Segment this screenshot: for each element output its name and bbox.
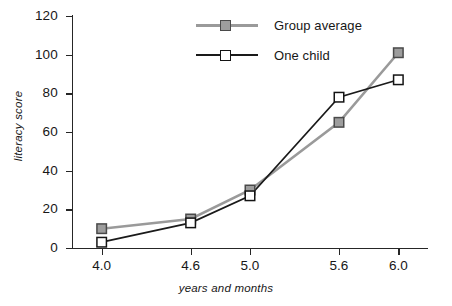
data-point-marker [394, 48, 404, 58]
data-point-marker [97, 224, 107, 234]
legend-label-one-child: One child [274, 48, 330, 63]
data-point-marker [245, 191, 255, 201]
legend-swatch-one-child [196, 48, 258, 62]
open-square-marker-icon [220, 50, 231, 61]
data-point-marker [334, 118, 344, 128]
literacy-score-line-chart: 020406080100120 4.04.65.05.66.0 literacy… [0, 0, 452, 306]
legend-item-one-child: One child [196, 40, 362, 70]
legend-swatch-group-average [196, 18, 258, 32]
data-point-marker [394, 75, 404, 85]
data-point-marker [186, 218, 196, 228]
data-point-marker [97, 237, 107, 247]
data-point-marker [334, 92, 344, 102]
legend-item-group-average: Group average [196, 10, 362, 40]
chart-legend: Group average One child [196, 10, 362, 70]
filled-square-marker-icon [220, 20, 231, 31]
series-line-group-average [102, 53, 399, 229]
legend-label-group-average: Group average [274, 18, 362, 33]
